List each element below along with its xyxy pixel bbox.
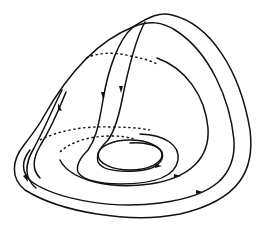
left-descending-trajectory	[77, 27, 178, 184]
arrow-icon-down-left-2	[119, 86, 123, 93]
right-descending-trajectory	[97, 22, 162, 171]
innermost-closed-orbit	[98, 140, 162, 170]
hidden-segment-lower-b	[60, 136, 134, 152]
flow-diagram	[0, 0, 268, 233]
inner-dome-curve	[24, 23, 235, 205]
third-contour-curve	[60, 58, 208, 186]
hidden-segment-upper	[86, 53, 157, 64]
